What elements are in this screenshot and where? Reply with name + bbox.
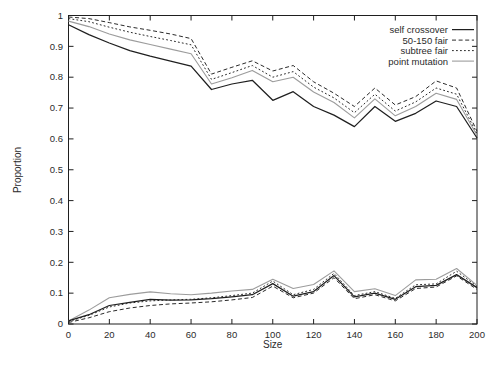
series-subtree-fair-lower-line bbox=[69, 271, 478, 321]
x-tick-label: 60 bbox=[186, 329, 197, 340]
y-axis-label: Proportion bbox=[12, 147, 23, 193]
y-tick-label: 0.5 bbox=[50, 164, 63, 175]
x-tick-label: 40 bbox=[145, 329, 156, 340]
legend-label-subtree-fair: subtree fair bbox=[400, 45, 448, 56]
x-tick-label: 20 bbox=[104, 329, 115, 340]
x-tick-label: 0 bbox=[66, 329, 71, 340]
line-chart: 02040608010012014016018020000.10.20.30.4… bbox=[0, 0, 501, 369]
y-tick-label: 0 bbox=[58, 318, 63, 329]
x-tick-label: 140 bbox=[347, 329, 363, 340]
y-tick-label: 0.7 bbox=[50, 102, 63, 113]
x-tick-label: 160 bbox=[387, 329, 403, 340]
y-tick-label: 0.2 bbox=[50, 257, 63, 268]
legend-label-50-150-fair: 50-150 fair bbox=[403, 35, 448, 46]
x-tick-label: 120 bbox=[306, 329, 322, 340]
chart-figure: 02040608010012014016018020000.10.20.30.4… bbox=[0, 0, 501, 369]
x-tick-label: 80 bbox=[227, 329, 238, 340]
x-tick-label: 180 bbox=[428, 329, 444, 340]
legend-label-self-crossover: self crossover bbox=[389, 24, 448, 35]
y-tick-label: 0.4 bbox=[50, 195, 63, 206]
y-tick-label: 0.9 bbox=[50, 41, 63, 52]
x-axis-label: Size bbox=[263, 339, 283, 350]
series-self-crossover-lower-line bbox=[69, 275, 478, 321]
series-50-150-fair-lower-line bbox=[69, 276, 478, 323]
x-tick-label: 200 bbox=[469, 329, 485, 340]
legend-label-point-mutation: point mutation bbox=[388, 56, 448, 67]
y-tick-label: 0.3 bbox=[50, 226, 63, 237]
y-tick-label: 0.6 bbox=[50, 133, 63, 144]
series-point-mutation-lower-line bbox=[69, 269, 478, 321]
y-tick-label: 0.8 bbox=[50, 71, 63, 82]
chart-generated-content: 02040608010012014016018020000.10.20.30.4… bbox=[50, 10, 485, 340]
y-tick-label: 0.1 bbox=[50, 287, 63, 298]
y-tick-label: 1 bbox=[58, 10, 63, 21]
